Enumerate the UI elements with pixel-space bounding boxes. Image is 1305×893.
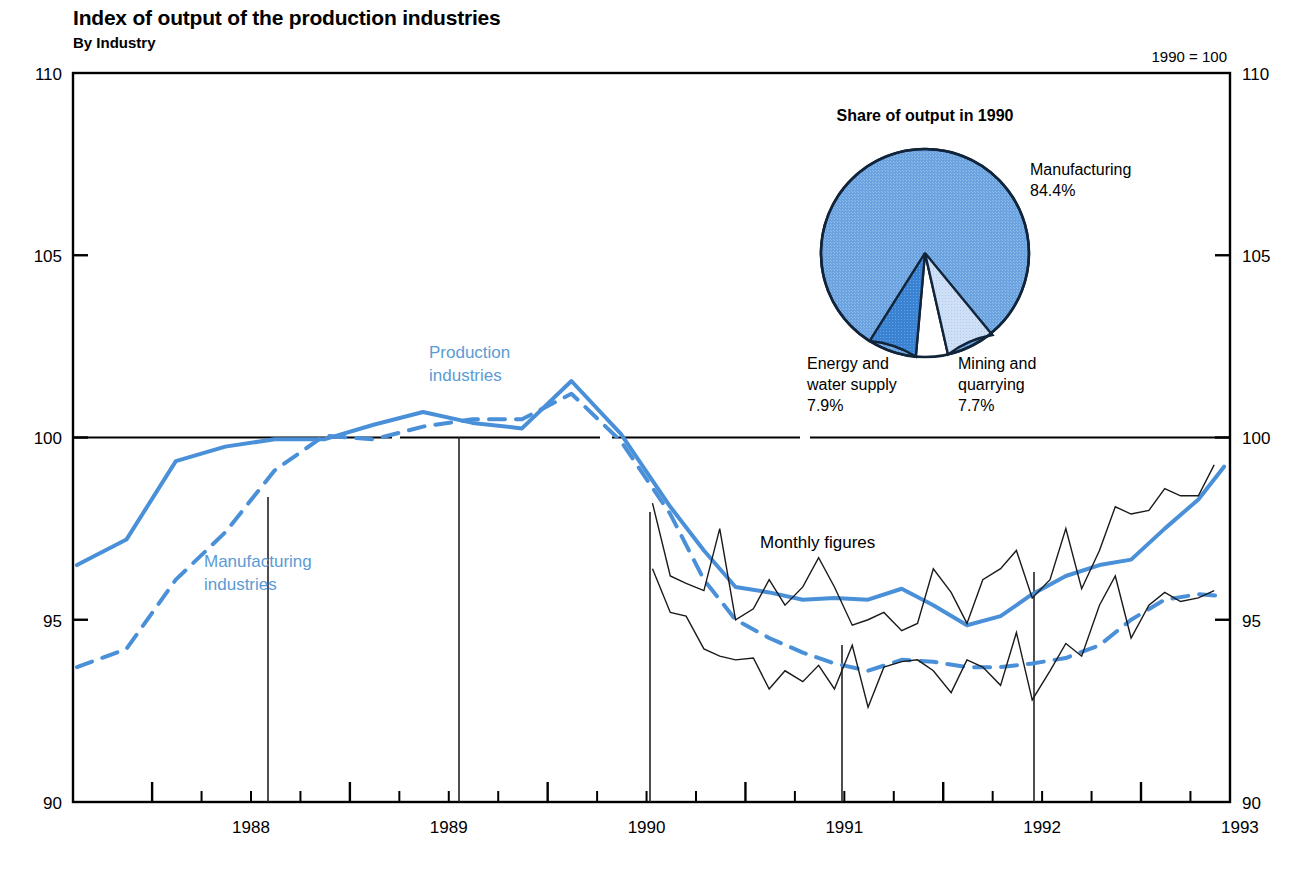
pie-inset: Share of output in 1990 Manufacturing 84…: [806, 107, 1131, 414]
label-monthly-figures: Monthly figures: [760, 533, 875, 552]
manufacturing-label-line2: industries: [204, 575, 277, 594]
pie-label-energy-value: 7.9%: [807, 397, 843, 414]
label-manufacturing-industries: Manufacturing industries: [204, 552, 312, 594]
y-tick-95-right: 95: [1242, 612, 1261, 631]
y-tick-95-left: 95: [43, 612, 62, 631]
y-tick-90-right: 90: [1242, 794, 1261, 813]
label-production-industries: Production industries: [429, 343, 510, 385]
pie-title: Share of output in 1990: [837, 107, 1014, 124]
pie-label-energy-name-2: water supply: [806, 376, 897, 393]
pie-label-energy-name: Energy and: [807, 355, 889, 372]
manufacturing-label-line1: Manufacturing: [204, 552, 312, 571]
production-label-line2: industries: [429, 366, 502, 385]
pie-label-mining-name-2: quarrying: [958, 376, 1025, 393]
production-label-line1: Production: [429, 343, 510, 362]
y-tick-100-right: 100: [1242, 429, 1270, 448]
y-tick-90-left: 90: [43, 794, 62, 813]
pie-label-mining-name: Mining and: [958, 355, 1036, 372]
y-tick-110-left: 110: [35, 65, 62, 84]
y-tick-100-left: 100: [34, 429, 62, 448]
x-axis-labels: 198819891990199119921993: [232, 818, 1259, 837]
chart-page: Index of output of the production indust…: [0, 0, 1305, 893]
y-tick-105-left: 105: [34, 247, 62, 266]
x-year-label-1988: 1988: [232, 818, 270, 837]
x-year-label-1991: 1991: [825, 818, 863, 837]
pie-label-mining-value: 7.7%: [958, 397, 994, 414]
pie-label-manufacturing-name: Manufacturing: [1030, 161, 1131, 178]
y-tick-105-right: 105: [1242, 247, 1270, 266]
x-year-label-1989: 1989: [430, 818, 468, 837]
x-year-label-1990: 1990: [628, 818, 666, 837]
pie-label-manufacturing-value: 84.4%: [1030, 182, 1075, 199]
y-axis-labels-right: 110 105 100 95 90: [1242, 65, 1270, 813]
y-axis-labels-left: 110 105 100 95 90: [34, 65, 62, 813]
chart-svg: 110 105 100 95 90 110 105 100 95 90 1988…: [0, 0, 1305, 893]
x-year-label-1993: 1993: [1221, 818, 1259, 837]
x-year-label-1992: 1992: [1023, 818, 1061, 837]
y-tick-110-right: 110: [1242, 65, 1269, 84]
series-line-3: [652, 569, 1214, 708]
